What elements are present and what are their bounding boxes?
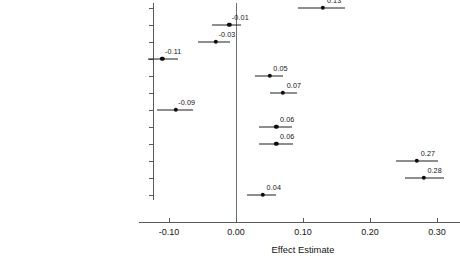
- x-axis-tick: [236, 218, 237, 222]
- x-axis-title: Effect Estimate: [272, 244, 335, 255]
- y-axis-tick: [149, 161, 153, 162]
- estimate-marker: [274, 125, 278, 129]
- estimate-marker: [227, 23, 231, 27]
- y-axis-tick: [149, 42, 153, 43]
- estimate-value-label: 0.04: [267, 183, 281, 192]
- y-axis-tick: [149, 76, 153, 77]
- estimate-value-label: 0.06: [280, 132, 294, 141]
- y-axis-spine: [153, 3, 154, 200]
- y-axis-tick: [149, 8, 153, 9]
- y-axis-tick: [149, 25, 153, 26]
- x-axis-line: [139, 222, 460, 223]
- estimate-marker: [274, 142, 278, 146]
- category-label-column: PayWorking HoursWorking Hours MismatchWo…: [0, 0, 148, 264]
- estimate-marker: [421, 176, 425, 180]
- x-axis-tick-label: 0.30: [428, 227, 446, 237]
- x-axis-tick-label: 0.20: [361, 227, 379, 237]
- x-axis-tick: [303, 218, 304, 222]
- x-axis-tick: [370, 218, 371, 222]
- estimate-value-label: 0.06: [280, 115, 294, 124]
- estimate-value-label: -0.11: [165, 47, 181, 56]
- estimate-marker: [321, 6, 325, 10]
- estimate-value-label: 0.05: [273, 64, 287, 73]
- y-axis-tick: [149, 93, 153, 94]
- estimate-marker: [261, 193, 265, 197]
- y-axis-tick: [149, 195, 153, 196]
- estimate-value-label: 0.13: [327, 0, 341, 5]
- estimate-value-label: 0.28: [427, 166, 441, 175]
- y-axis-tick: [149, 144, 153, 145]
- y-axis-tick: [149, 110, 153, 111]
- x-axis-tick-label: -0.10: [159, 227, 180, 237]
- estimate-marker: [281, 91, 285, 95]
- x-axis-tick: [169, 218, 170, 222]
- estimate-marker: [415, 159, 419, 163]
- estimate-value-label: -0.03: [218, 30, 235, 39]
- y-axis-tick: [149, 178, 153, 179]
- x-axis-tick: [437, 218, 438, 222]
- estimate-marker: [160, 57, 164, 61]
- y-axis-tick: [149, 127, 153, 128]
- estimate-value-label: -0.09: [178, 98, 195, 107]
- x-axis-tick-label: 0.10: [294, 227, 312, 237]
- x-axis-tick-label: 0.00: [227, 227, 245, 237]
- estimate-marker: [173, 108, 177, 112]
- estimate-marker: [267, 74, 271, 78]
- estimate-value-label: -0.01: [232, 13, 249, 22]
- zero-reference-line: [236, 3, 237, 222]
- estimate-value-label: 0.27: [421, 149, 435, 158]
- estimate-marker: [214, 40, 218, 44]
- estimate-value-label: 0.07: [287, 81, 301, 90]
